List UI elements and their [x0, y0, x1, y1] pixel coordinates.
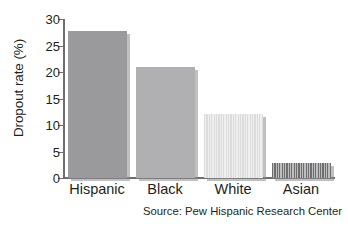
y-tick-label: 20 [46, 66, 60, 79]
source-note: Source: Pew Hispanic Research Center [143, 204, 342, 218]
x-tick-label-white: White [199, 180, 267, 199]
bar-hispanic [68, 31, 127, 178]
bar-chart-figure: Dropout rate (%) 051015202530 HispanicBl… [0, 0, 348, 232]
y-tick-label: 0 [53, 172, 60, 185]
y-tick-label: 25 [46, 39, 60, 52]
bar-asian [272, 163, 331, 178]
y-tick-label: 15 [46, 92, 60, 105]
bar-slot [136, 19, 195, 178]
x-axis-tick-labels: HispanicBlackWhiteAsian [63, 180, 335, 200]
bar-black [136, 67, 195, 178]
y-tick-label: 5 [53, 145, 60, 158]
bar-series [63, 19, 335, 178]
bar-slot [272, 19, 331, 178]
x-tick-label-asian: Asian [267, 180, 335, 199]
plot-area: 051015202530 [63, 19, 335, 178]
bar-slot [68, 19, 127, 178]
y-tick-label: 10 [46, 119, 60, 132]
bar-slot [204, 19, 263, 178]
x-tick-label-black: Black [131, 180, 199, 199]
x-tick-label-hispanic: Hispanic [63, 180, 131, 199]
bar-white [204, 114, 263, 178]
y-tick-label: 30 [46, 13, 60, 26]
y-axis-title: Dropout rate (%) [8, 8, 30, 168]
